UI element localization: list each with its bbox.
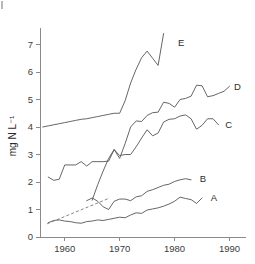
series-line-a — [48, 197, 202, 223]
y-axis-ticks: 01234567 — [28, 39, 40, 243]
y-tick-label: 1 — [28, 204, 33, 215]
series-label-a: A — [211, 192, 218, 203]
data-series-group — [43, 34, 230, 224]
series-line-b — [87, 179, 191, 210]
series-labels-group: ABCDE — [178, 37, 241, 203]
y-tick-label: 7 — [28, 39, 33, 50]
chart-container: 01234567 1960197019801990 ABCDE mg N L⁻¹ — [0, 0, 255, 264]
series-label-b: B — [200, 173, 206, 184]
x-tick-label: 1990 — [219, 243, 240, 254]
x-tick-label: 1970 — [109, 243, 130, 254]
y-tick-label: 2 — [28, 176, 33, 187]
x-axis-ticks: 1960197019801990 — [54, 237, 240, 254]
series-line-d — [92, 85, 229, 200]
line-chart: 01234567 1960197019801990 ABCDE mg N L⁻¹ — [0, 0, 255, 264]
corner-mark — [1, 1, 3, 9]
series-label-e: E — [178, 37, 184, 48]
y-tick-label: 0 — [28, 231, 33, 242]
series-line-e — [43, 34, 164, 128]
y-tick-label: 4 — [28, 121, 33, 132]
chart-axes — [40, 28, 246, 237]
y-axis-title: mg N L⁻¹ — [7, 115, 18, 156]
x-tick-label: 1980 — [164, 243, 185, 254]
y-tick-label: 3 — [28, 149, 33, 160]
y-tick-label: 6 — [28, 66, 33, 77]
x-tick-label: 1960 — [54, 243, 75, 254]
series-label-c: C — [225, 119, 232, 130]
y-tick-label: 5 — [28, 94, 33, 105]
series-line-c — [48, 115, 218, 180]
series-label-d: D — [234, 81, 241, 92]
